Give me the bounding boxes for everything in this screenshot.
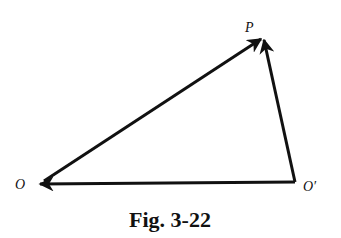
vector-triangle-diagram: O O′ P Fig. 3-22 [0,0,341,238]
label-O: O [15,177,25,192]
label-O-prime: O′ [303,179,317,194]
figure-caption: Fig. 3-22 [129,207,211,232]
label-P: P [244,20,254,35]
vector-OprimeO [40,182,295,184]
vector-OprimeP [264,40,295,182]
vector-OP [44,39,261,181]
